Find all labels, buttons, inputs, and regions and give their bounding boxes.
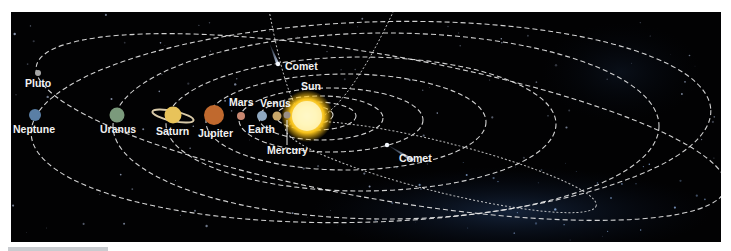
label-uranus: Uranus xyxy=(100,123,136,135)
planet-venus xyxy=(273,112,282,121)
star xyxy=(635,183,636,184)
comet-head xyxy=(276,62,280,66)
star xyxy=(317,165,319,167)
star xyxy=(14,33,16,35)
star xyxy=(189,148,190,149)
label-comet-upper: Comet xyxy=(285,60,318,72)
bottom-edge-strip xyxy=(8,247,108,251)
star xyxy=(467,228,468,229)
star xyxy=(231,110,233,112)
star xyxy=(459,45,461,47)
star xyxy=(341,69,342,70)
star xyxy=(497,181,498,182)
star xyxy=(517,212,518,213)
star xyxy=(236,78,238,80)
planet-earth xyxy=(257,111,267,121)
star xyxy=(210,51,211,52)
planet-mercury xyxy=(284,112,291,119)
star xyxy=(515,167,516,168)
star xyxy=(292,212,294,214)
planet-jupiter xyxy=(204,105,224,125)
star xyxy=(712,121,714,123)
star xyxy=(492,177,494,179)
planet-saturn xyxy=(165,107,182,124)
star xyxy=(337,225,338,226)
star xyxy=(266,29,267,30)
star xyxy=(597,182,599,184)
star xyxy=(198,25,199,26)
star xyxy=(463,162,464,163)
star xyxy=(523,157,525,159)
planet-uranus xyxy=(110,108,125,123)
star xyxy=(120,174,122,176)
star xyxy=(689,55,691,57)
star xyxy=(357,26,358,27)
star xyxy=(495,174,496,175)
star xyxy=(643,166,644,167)
star xyxy=(159,91,161,93)
star xyxy=(527,35,529,37)
star xyxy=(26,232,27,233)
star xyxy=(47,96,49,98)
star xyxy=(607,231,608,232)
star xyxy=(354,69,356,71)
star xyxy=(704,198,706,200)
star xyxy=(249,140,250,141)
star xyxy=(422,89,424,91)
star xyxy=(180,215,181,216)
star xyxy=(423,135,425,137)
star xyxy=(429,87,430,88)
star xyxy=(194,210,196,212)
star xyxy=(541,169,543,171)
star xyxy=(83,223,85,225)
star xyxy=(713,157,714,158)
star xyxy=(303,167,305,169)
star xyxy=(418,184,420,186)
planet-pluto xyxy=(35,70,41,76)
star xyxy=(46,228,47,229)
star xyxy=(466,174,468,176)
milky-way-glow xyxy=(311,167,711,242)
comet-head xyxy=(385,143,389,147)
planet-mars xyxy=(237,112,245,120)
star xyxy=(536,81,538,83)
star xyxy=(602,236,603,237)
star xyxy=(142,128,144,130)
comet-tail xyxy=(269,42,279,64)
star xyxy=(15,94,16,95)
star xyxy=(501,42,503,44)
star xyxy=(565,126,567,128)
star xyxy=(12,205,14,207)
star xyxy=(576,171,577,172)
star xyxy=(513,232,515,234)
star xyxy=(701,139,702,140)
star xyxy=(559,93,560,94)
label-saturn: Saturn xyxy=(156,125,189,137)
star xyxy=(447,26,448,27)
star xyxy=(670,54,671,55)
star xyxy=(193,125,195,127)
star xyxy=(681,93,683,95)
star xyxy=(344,78,346,80)
star xyxy=(489,79,490,80)
star xyxy=(234,83,236,85)
star xyxy=(538,182,539,183)
star xyxy=(160,42,162,44)
planet-neptune xyxy=(29,109,41,121)
star xyxy=(695,66,696,67)
star xyxy=(640,22,641,23)
label-pluto: Pluto xyxy=(25,77,51,89)
star xyxy=(161,74,162,75)
star xyxy=(187,83,189,85)
diagram-canvas: Comet Sun Pluto Neptune Uranus Saturn Ju… xyxy=(11,12,721,242)
star xyxy=(491,116,493,118)
label-mars: Mars xyxy=(229,96,254,108)
label-venus: Venus xyxy=(260,97,291,109)
star xyxy=(649,164,651,166)
star xyxy=(111,98,113,100)
star xyxy=(606,78,608,80)
star xyxy=(640,229,641,230)
star xyxy=(621,183,623,185)
star xyxy=(205,225,207,227)
star xyxy=(105,14,107,16)
